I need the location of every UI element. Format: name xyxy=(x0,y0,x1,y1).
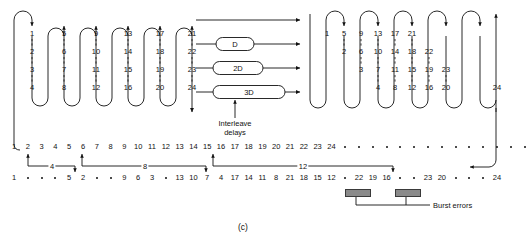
sequence-bottom-10: 10 xyxy=(186,174,200,182)
sequence-bottom-12: 12 xyxy=(324,174,338,182)
sequence-top-18: 18 xyxy=(242,143,256,151)
sequence-top-dot-27 xyxy=(386,146,388,148)
sequence-top-17: 17 xyxy=(228,143,242,151)
sequence-bottom-11: 11 xyxy=(255,174,269,182)
sequence-bottom-dot-32 xyxy=(455,177,457,179)
sequence-top-dot-26 xyxy=(372,146,374,148)
sequence-top-15: 15 xyxy=(200,143,214,151)
sequence-top-dot-32 xyxy=(455,146,457,148)
sequence-top-dot-37 xyxy=(524,146,526,148)
sequence-bottom-16: 16 xyxy=(380,174,394,182)
sequence-bottom-21: 21 xyxy=(283,174,297,182)
sequence-top-21: 21 xyxy=(283,143,297,151)
sequence-bottom-dot-11 xyxy=(165,177,167,179)
sequence-top-11: 11 xyxy=(145,143,159,151)
sequence-bottom-4: 4 xyxy=(214,174,228,182)
sequence-top-16: 16 xyxy=(214,143,228,151)
sequence-bottom-7: 7 xyxy=(200,174,214,182)
sequence-top-23: 23 xyxy=(311,143,325,151)
sequence-bottom-14: 14 xyxy=(242,174,256,182)
sequence-bottom-5: 5 xyxy=(62,174,76,182)
sequence-top-4: 4 xyxy=(48,143,62,151)
sequence-top-22: 22 xyxy=(297,143,311,151)
sequence-top-dot-36 xyxy=(510,146,512,148)
sequence-bottom-dot-1 xyxy=(27,177,29,179)
sequence-top-2: 2 xyxy=(21,143,35,151)
sequence-bottom-dot-2 xyxy=(41,177,43,179)
sequence-top-9: 9 xyxy=(117,143,131,151)
sequence-bottom-17: 17 xyxy=(228,174,242,182)
sequence-top-8: 8 xyxy=(104,143,118,151)
sequence-top-14: 14 xyxy=(186,143,200,151)
sequence-bottom-15: 15 xyxy=(311,174,325,182)
sequence-bottom-3: 3 xyxy=(145,174,159,182)
sequence-bottom-1: 1 xyxy=(7,174,21,182)
sequence-bottom-23: 23 xyxy=(421,174,435,182)
sequence-top-5: 5 xyxy=(62,143,76,151)
sequence-bottom-2: 2 xyxy=(76,174,90,182)
sequence-top-13: 13 xyxy=(173,143,187,151)
sequence-bottom-20: 20 xyxy=(435,174,449,182)
sequence-top-6: 6 xyxy=(76,143,90,151)
sequence-bottom-18: 18 xyxy=(297,174,311,182)
deinterleaver-cell-20: 20 xyxy=(439,84,453,92)
sequence-bottom-13: 13 xyxy=(173,174,187,182)
sequence-bottom-6: 6 xyxy=(131,174,145,182)
deinterleaver-cell-24: 24 xyxy=(490,84,504,92)
sequence-top-1: 1 xyxy=(7,143,21,151)
sequence-bottom-dot-6 xyxy=(96,177,98,179)
sequence-bottom-dot-7 xyxy=(110,177,112,179)
sequence-top-12: 12 xyxy=(159,143,173,151)
sequence-bottom-19: 19 xyxy=(366,174,380,182)
sequence-top-3: 3 xyxy=(35,143,49,151)
sequence-top-20: 20 xyxy=(269,143,283,151)
sequence-bottom-9: 9 xyxy=(117,174,131,182)
sequence-top-7: 7 xyxy=(90,143,104,151)
sequence-top-19: 19 xyxy=(255,143,269,151)
sequence-top-24: 24 xyxy=(324,143,338,151)
sequence-top-10: 10 xyxy=(131,143,145,151)
sequence-bottom-8: 8 xyxy=(269,174,283,182)
sequence-bottom-24: 24 xyxy=(490,174,504,182)
sequence-bottom-22: 22 xyxy=(352,174,366,182)
sequence-top-dot-31 xyxy=(441,146,443,148)
